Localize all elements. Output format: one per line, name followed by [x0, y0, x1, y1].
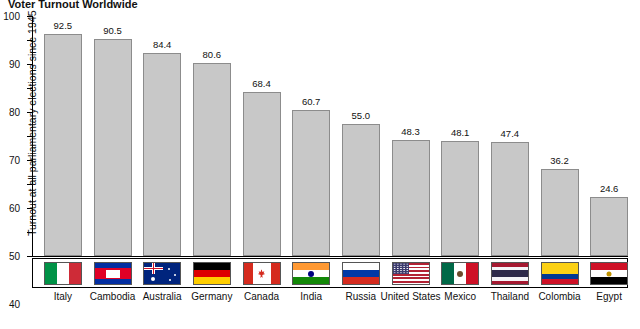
flag-india-icon	[292, 262, 330, 285]
bar	[94, 39, 132, 256]
flag-australia-icon	[143, 262, 181, 285]
bar-value-label: 84.4	[153, 39, 172, 50]
flag-germany-icon	[193, 262, 231, 285]
bar-group: 48.3	[392, 16, 430, 256]
chart-root: Voter Turnout Worldwide Turnout at all p…	[0, 0, 640, 329]
bar-value-label: 36.2	[550, 155, 569, 166]
bar-group: 60.7	[292, 16, 330, 256]
bar-value-label: 48.3	[401, 126, 420, 137]
chart-title: Voter Turnout Worldwide	[8, 0, 138, 10]
flag-egypt-icon	[590, 262, 628, 285]
flag-colombia-icon	[541, 262, 579, 285]
plot-area: 0102030405060708090100 92.590.584.480.66…	[32, 16, 628, 256]
bar-group: 80.6	[193, 16, 231, 256]
flag-cambodia-icon	[94, 262, 132, 285]
bar-series: 92.590.584.480.668.460.755.048.348.147.4…	[32, 16, 628, 256]
bar	[342, 124, 380, 256]
bar	[193, 63, 231, 256]
bar	[243, 92, 281, 256]
flag-canada-icon	[243, 262, 281, 285]
flag-thailand-icon	[491, 262, 529, 285]
x-axis-line	[32, 256, 628, 257]
bar-group: 47.4	[491, 16, 529, 256]
bar-value-label: 48.1	[451, 127, 470, 138]
bar-group: 68.4	[243, 16, 281, 256]
bar-value-label: 68.4	[252, 78, 271, 89]
bar-group: 92.5	[44, 16, 82, 256]
bar	[392, 140, 430, 256]
flag-united-states-icon	[392, 262, 430, 285]
y-tick-label: 70	[9, 155, 20, 166]
flag-russia-icon	[342, 262, 380, 285]
bar-value-label: 92.5	[54, 20, 73, 31]
bar-group: 90.5	[94, 16, 132, 256]
y-tick-label: 60	[9, 203, 20, 214]
y-tick-label: 90	[9, 59, 20, 70]
bar	[441, 141, 479, 256]
bar	[292, 110, 330, 256]
bar-group: 36.2	[541, 16, 579, 256]
flag-mexico-icon	[441, 262, 479, 285]
y-tick-label: 80	[9, 107, 20, 118]
bar-group: 48.1	[441, 16, 479, 256]
bar-value-label: 80.6	[203, 49, 222, 60]
bar-group: 24.6	[590, 16, 628, 256]
bar-group: 55.0	[342, 16, 380, 256]
bar-value-label: 24.6	[600, 183, 619, 194]
bar-value-label: 47.4	[501, 128, 520, 139]
flag-italy-icon	[44, 262, 82, 285]
bar	[590, 197, 628, 256]
y-tick: 0	[27, 256, 32, 257]
bar-value-label: 60.7	[302, 96, 321, 107]
bar-group: 84.4	[143, 16, 181, 256]
y-tick-label: 40	[9, 299, 20, 310]
bar	[541, 169, 579, 256]
flag-strip	[32, 258, 628, 288]
y-tick-label: 100	[3, 11, 20, 22]
y-tick-label: 50	[9, 251, 20, 262]
category-label: Egypt	[573, 291, 640, 302]
bar	[491, 142, 529, 256]
bar-value-label: 55.0	[352, 110, 371, 121]
bar	[44, 34, 82, 256]
bar-value-label: 90.5	[103, 25, 122, 36]
bar	[143, 53, 181, 256]
